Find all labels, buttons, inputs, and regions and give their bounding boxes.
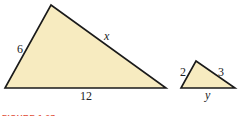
large-triangle-side-bottom-label: 12 <box>80 89 92 103</box>
small-triangle-side-right-label: 3 <box>218 65 224 79</box>
small-triangle-side-left-label: 2 <box>180 65 186 79</box>
small-triangle-side-bottom-label: y <box>204 88 211 102</box>
large-triangle-side-right-label: x <box>103 29 110 43</box>
large-triangle <box>5 5 166 88</box>
large-triangle-side-left-label: 6 <box>17 42 23 56</box>
figure-caption: FIGURE 1.27 <box>2 113 56 116</box>
small-triangle <box>181 61 235 88</box>
similar-triangles-diagram: 6 x 12 2 3 y FIGURE 1.27 <box>0 0 239 116</box>
